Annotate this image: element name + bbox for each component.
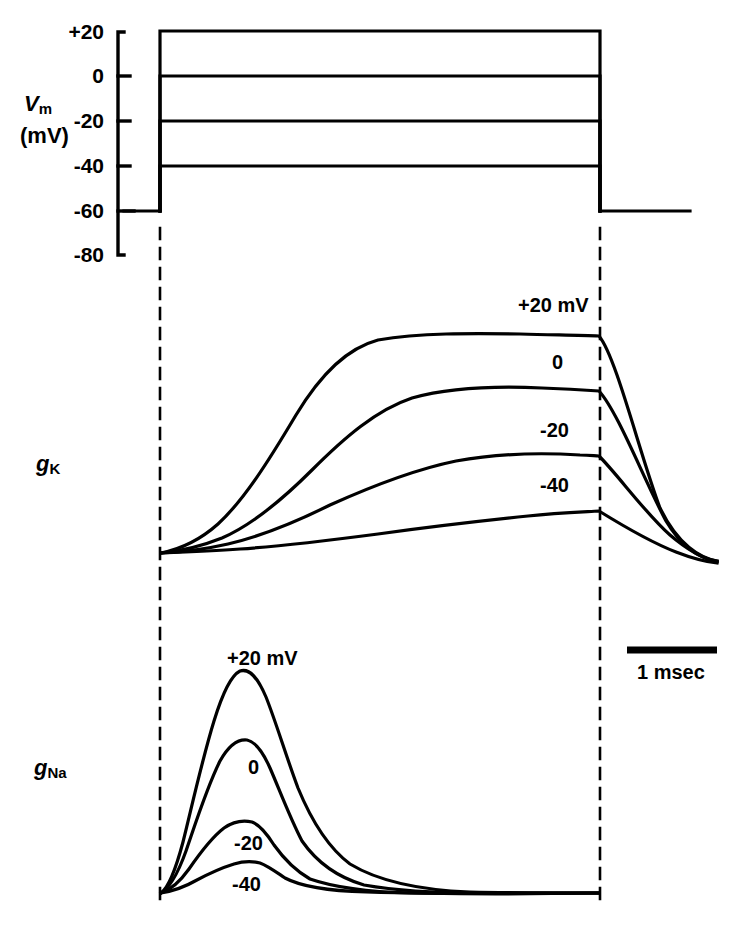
gna-curve-minus20 xyxy=(161,821,599,893)
vm-tick-label-0: 0 xyxy=(26,65,104,86)
gna-axis-label-symbol: g xyxy=(34,755,47,780)
vm-step-minus40 xyxy=(160,166,600,211)
gna-axis-label-subscript: Na xyxy=(47,764,66,781)
gna-axis-label: gNa xyxy=(34,757,67,779)
vm-tick-label-minus40: -40 xyxy=(26,155,104,176)
gna-label-plus20: +20 mV xyxy=(227,648,298,668)
vm-axis-label-symbol: V xyxy=(24,91,39,116)
gna-label-minus20: -20 xyxy=(234,833,263,853)
vm-axis-label-subscript: m xyxy=(39,100,52,117)
vm-axis-label: Vm xyxy=(24,93,52,115)
voltage-clamp-figure: +20 0 -20 -40 -60 -80 Vm (mV) gK gNa +20… xyxy=(0,0,738,927)
gk-axis-label: gK xyxy=(36,453,60,475)
gk-curve-minus40 xyxy=(161,511,717,563)
gk-axis-label-subscript: K xyxy=(49,460,60,477)
vm-tick-label-plus20: +20 xyxy=(26,21,104,42)
gna-label-minus40: -40 xyxy=(232,874,261,894)
vm-axis-units: (mV) xyxy=(20,125,69,147)
vm-axis xyxy=(118,32,134,255)
scale-bar-label: 1 msec xyxy=(637,662,705,682)
gk-label-plus20: +20 mV xyxy=(518,295,589,315)
gk-label-minus20: -20 xyxy=(540,420,569,440)
gna-curve-0 xyxy=(161,740,599,893)
vm-tick-label-minus60: -60 xyxy=(26,200,104,221)
gk-curve-minus20 xyxy=(161,454,717,562)
gna-label-0: 0 xyxy=(248,757,259,777)
gna-curve-plus20 xyxy=(161,670,599,893)
figure-canvas xyxy=(0,0,738,927)
gk-label-minus40: -40 xyxy=(540,475,569,495)
gk-axis-label-symbol: g xyxy=(36,451,49,476)
gk-curve-0 xyxy=(161,387,717,561)
vm-step-0 xyxy=(160,76,600,211)
vm-tick-label-minus80: -80 xyxy=(26,244,104,265)
gk-label-0: 0 xyxy=(552,352,563,372)
